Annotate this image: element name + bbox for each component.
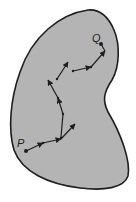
- node-dot: [42, 142, 44, 144]
- node-dot: [90, 66, 92, 68]
- node-dot: [72, 70, 74, 72]
- diagram-canvas: P Q: [0, 0, 136, 202]
- label-p: P: [17, 137, 25, 149]
- node-dot: [60, 137, 62, 139]
- node-dot: [56, 78, 58, 80]
- label-q: Q: [92, 32, 101, 44]
- node-dot: [57, 97, 59, 99]
- region-path-diagram: P Q: [0, 0, 136, 202]
- node-dot: [62, 113, 64, 115]
- region-shape: [11, 10, 129, 189]
- start-point-p: [24, 149, 28, 153]
